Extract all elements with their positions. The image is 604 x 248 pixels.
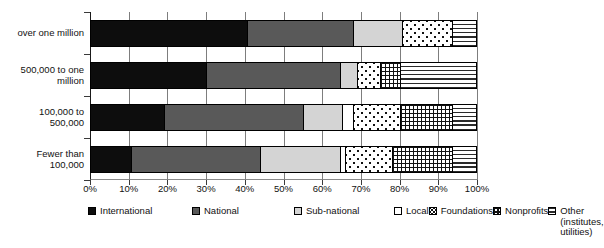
x-axis-label: 0% xyxy=(70,183,110,194)
bar-segment-subnational xyxy=(303,104,342,131)
bar-row xyxy=(90,20,477,47)
category-label: 100,000 to 500,000 xyxy=(0,106,84,129)
x-axis-label: 60% xyxy=(302,183,342,194)
legend-label: Nonprofits xyxy=(505,206,548,217)
bar-segment-nonprofits xyxy=(392,146,452,173)
bar-segment-international xyxy=(90,20,247,47)
legend-item[interactable]: International xyxy=(88,206,192,222)
bar-segment-national xyxy=(247,20,353,47)
legend-label: International xyxy=(100,206,152,217)
bar-segment-other xyxy=(452,104,477,131)
legend-swatch-icon xyxy=(88,207,96,215)
legend-label: Local xyxy=(406,206,429,217)
legend-swatch-icon xyxy=(548,207,556,215)
bar-segment-nonprofits xyxy=(380,62,399,89)
bar-segment-other xyxy=(452,20,477,47)
legend-swatch-icon xyxy=(429,207,437,215)
bar-segment-international xyxy=(90,146,131,173)
bar-segment-nonprofits xyxy=(400,104,452,131)
legend-label: Foundations xyxy=(441,206,493,217)
category-label: Fewer than 100,000 xyxy=(0,148,84,171)
legend-item[interactable]: Local xyxy=(394,206,429,222)
bar-segment-local xyxy=(342,104,354,131)
y-tick-3 xyxy=(84,138,90,139)
bar-segment-subnational xyxy=(340,62,357,89)
bar-segment-national xyxy=(131,146,261,173)
y-tick-2 xyxy=(84,96,90,97)
legend-label: Other (institutes, utilities) xyxy=(560,206,603,238)
x-axis-label: 70% xyxy=(341,183,381,194)
bar-segment-subnational xyxy=(260,146,339,173)
x-axis-label: 100% xyxy=(457,183,497,194)
bar-segment-foundations xyxy=(353,104,399,131)
bar-segment-international xyxy=(90,104,164,131)
bar-segment-foundations xyxy=(402,20,452,47)
legend-swatch-icon xyxy=(493,207,501,215)
x-axis-label: 90% xyxy=(418,183,458,194)
x-axis-label: 40% xyxy=(225,183,265,194)
legend-label: National xyxy=(204,206,239,217)
y-tick-4 xyxy=(84,180,90,181)
legend-item[interactable]: Foundations xyxy=(429,206,493,222)
gridline-100 xyxy=(477,12,478,180)
bar-segment-other xyxy=(400,62,477,89)
bar-segment-national xyxy=(164,104,303,131)
bar-row xyxy=(90,146,477,173)
bar-segment-other xyxy=(452,146,477,173)
legend-item[interactable]: Sub-national xyxy=(294,206,394,222)
x-axis-label: 30% xyxy=(186,183,226,194)
legend-swatch-icon xyxy=(394,207,402,215)
legend-item[interactable]: Other (institutes, utilities) xyxy=(548,206,603,222)
y-tick-0 xyxy=(84,12,90,13)
legend-swatch-icon xyxy=(192,207,200,215)
category-label: 500,000 to one million xyxy=(0,64,84,87)
bar-row xyxy=(90,62,477,89)
x-axis-label: 50% xyxy=(264,183,304,194)
bar-segment-foundations xyxy=(357,62,380,89)
chart-legend: InternationalNationalSub-nationalLocalFo… xyxy=(88,206,498,222)
legend-item[interactable]: Nonprofits xyxy=(493,206,548,222)
category-label: over one million xyxy=(0,27,84,39)
bar-segment-subnational xyxy=(353,20,401,47)
x-axis-label: 20% xyxy=(147,183,187,194)
legend-item[interactable]: National xyxy=(192,206,294,222)
bar-segment-national xyxy=(206,62,340,89)
x-axis-label: 10% xyxy=(109,183,149,194)
legend-swatch-icon xyxy=(294,207,302,215)
y-tick-1 xyxy=(84,54,90,55)
x-axis-label: 80% xyxy=(380,183,420,194)
bar-segment-international xyxy=(90,62,206,89)
legend-label: Sub-national xyxy=(306,206,359,217)
bar-segment-foundations xyxy=(345,146,391,173)
bar-row xyxy=(90,104,477,131)
